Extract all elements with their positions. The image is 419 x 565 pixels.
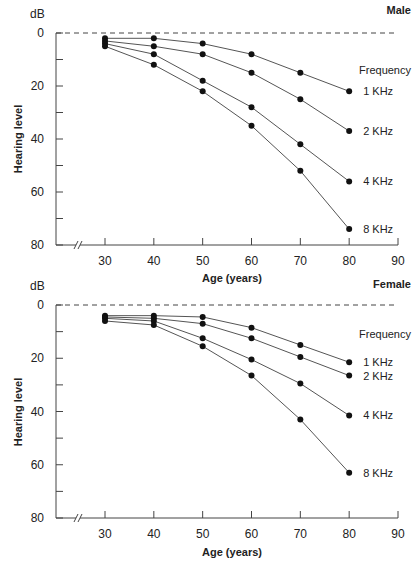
- x-tick-label: 50: [196, 254, 210, 268]
- series-label: 1 KHz: [363, 85, 393, 97]
- data-point: [200, 78, 206, 84]
- series-label: 1 KHz: [363, 356, 393, 368]
- series-label: 2 KHz: [363, 125, 393, 137]
- data-point: [151, 35, 157, 41]
- x-axis-title: Age (years): [202, 546, 262, 558]
- series-label: 4 KHz: [363, 409, 393, 421]
- series-8-khz: 8 KHz: [102, 318, 393, 479]
- female-chart-panel: dBFemale02040608030405060708090Age (year…: [12, 278, 411, 558]
- data-point: [200, 335, 206, 341]
- x-axis-title: Age (years): [202, 272, 262, 284]
- y-tick-label: 80: [31, 511, 45, 525]
- panel-title: Female: [373, 278, 411, 290]
- data-point: [200, 314, 206, 320]
- data-point: [346, 412, 352, 418]
- x-tick-label: 60: [245, 527, 259, 541]
- series-8-khz: 8 KHz: [102, 43, 393, 235]
- series-line: [105, 38, 349, 91]
- data-point: [297, 354, 303, 360]
- y-tick-label: 40: [31, 405, 45, 419]
- data-point: [200, 321, 206, 327]
- data-point: [249, 335, 255, 341]
- data-point: [297, 141, 303, 147]
- data-point: [249, 325, 255, 331]
- series-line: [105, 316, 349, 363]
- series-line: [105, 321, 349, 473]
- data-point: [200, 51, 206, 57]
- x-tick-label: 40: [147, 527, 161, 541]
- series-line: [105, 44, 349, 182]
- series-label: 8 KHz: [363, 467, 393, 479]
- data-point: [200, 41, 206, 47]
- data-point: [249, 104, 255, 110]
- data-point: [346, 373, 352, 379]
- y-tick-label: 0: [37, 298, 44, 312]
- series-4-khz: 4 KHz: [102, 41, 393, 188]
- hearing-level-figure: dBMale02040608030405060708090Age (years)…: [0, 0, 419, 565]
- data-point: [346, 178, 352, 184]
- x-tick-label: 40: [147, 254, 161, 268]
- data-point: [297, 168, 303, 174]
- y-unit-label: dB: [30, 7, 45, 21]
- x-tick-label: 70: [294, 254, 308, 268]
- x-tick-label: 30: [98, 527, 112, 541]
- legend-title: Frequency: [359, 64, 411, 76]
- x-tick-label: 80: [342, 254, 356, 268]
- charts-canvas: dBMale02040608030405060708090Age (years)…: [0, 0, 419, 565]
- x-tick-label: 70: [294, 527, 308, 541]
- x-tick-label: 90: [391, 254, 405, 268]
- series-label: 4 KHz: [363, 175, 393, 187]
- data-point: [151, 62, 157, 68]
- data-point: [200, 343, 206, 349]
- data-point: [151, 51, 157, 57]
- series-label: 2 KHz: [363, 370, 393, 382]
- series-line: [105, 318, 349, 415]
- x-tick-label: 80: [342, 527, 356, 541]
- y-axis-title: Hearing level: [12, 378, 24, 446]
- data-point: [102, 318, 108, 324]
- legend-title: Frequency: [359, 328, 411, 340]
- data-point: [346, 359, 352, 365]
- series-line: [105, 46, 349, 229]
- data-point: [200, 88, 206, 94]
- data-point: [249, 373, 255, 379]
- data-point: [346, 470, 352, 476]
- data-point: [249, 51, 255, 57]
- series-4-khz: 4 KHz: [102, 315, 393, 421]
- data-point: [151, 322, 157, 328]
- data-point: [346, 88, 352, 94]
- series-line: [105, 317, 349, 376]
- data-point: [297, 96, 303, 102]
- y-tick-label: 40: [31, 132, 45, 146]
- x-tick-label: 90: [391, 527, 405, 541]
- data-point: [102, 43, 108, 49]
- data-point: [249, 123, 255, 129]
- y-unit-label: dB: [30, 279, 45, 293]
- data-point: [151, 43, 157, 49]
- y-tick-label: 60: [31, 458, 45, 472]
- data-point: [346, 128, 352, 134]
- panel-title: Male: [387, 4, 411, 16]
- y-tick-label: 80: [31, 238, 45, 252]
- data-point: [297, 381, 303, 387]
- data-point: [297, 342, 303, 348]
- data-point: [249, 70, 255, 76]
- x-tick-label: 50: [196, 527, 210, 541]
- series-line: [105, 41, 349, 131]
- data-point: [346, 226, 352, 232]
- data-point: [249, 357, 255, 363]
- data-point: [297, 416, 303, 422]
- x-tick-label: 60: [245, 254, 259, 268]
- y-tick-label: 20: [31, 79, 45, 93]
- male-chart-panel: dBMale02040608030405060708090Age (years)…: [12, 4, 411, 284]
- y-tick-label: 0: [37, 26, 44, 40]
- series-label: 8 KHz: [363, 223, 393, 235]
- x-tick-label: 30: [98, 254, 112, 268]
- y-tick-label: 20: [31, 351, 45, 365]
- y-axis-title: Hearing level: [12, 105, 24, 173]
- data-point: [297, 70, 303, 76]
- series-1-khz: 1 KHz: [102, 35, 393, 97]
- y-tick-label: 60: [31, 185, 45, 199]
